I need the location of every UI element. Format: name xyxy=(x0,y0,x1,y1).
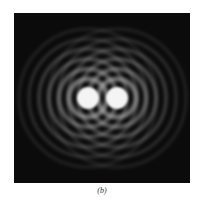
left-airy-disk xyxy=(77,87,99,109)
figure-caption: (b) xyxy=(0,186,204,195)
diffraction-pattern-image xyxy=(14,13,190,183)
right-airy-disk xyxy=(106,87,128,109)
diffraction-svg xyxy=(14,13,190,183)
